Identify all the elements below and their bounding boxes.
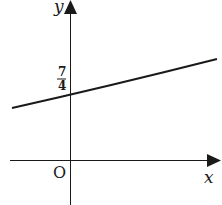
- y-axis-label: y: [53, 0, 64, 16]
- intercept-denominator: 4: [58, 79, 66, 93]
- intercept-numerator: 7: [58, 65, 66, 79]
- coordinate-graph: y x O 7 4: [0, 0, 222, 205]
- origin-label: O: [53, 163, 66, 182]
- y-axis-arrow-icon: [64, 0, 77, 14]
- intercept-label: 7 4: [57, 65, 66, 93]
- x-axis-label: x: [204, 167, 214, 187]
- graph-line: [12, 59, 217, 108]
- x-axis-arrow-icon: [207, 154, 221, 167]
